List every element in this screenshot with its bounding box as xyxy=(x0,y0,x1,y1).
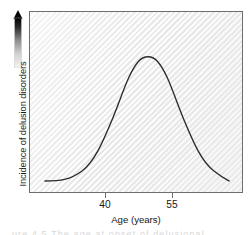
x-tick-mark-55 xyxy=(172,193,173,198)
partial-caption-text: ure 4.5 The age at onset of delusional xyxy=(12,229,240,235)
x-tick-mark-40 xyxy=(105,193,106,198)
y-axis-label: Incidence of delusion disorders xyxy=(18,44,28,204)
figure-container: Incidence of delusion disorders 40 55 Ag… xyxy=(0,0,252,235)
distribution-curve xyxy=(30,12,243,193)
x-axis-label: Age (years) xyxy=(29,214,243,225)
x-tick-label-40: 40 xyxy=(85,199,125,210)
x-tick-label-55: 55 xyxy=(152,199,192,210)
plot-area xyxy=(29,11,243,193)
